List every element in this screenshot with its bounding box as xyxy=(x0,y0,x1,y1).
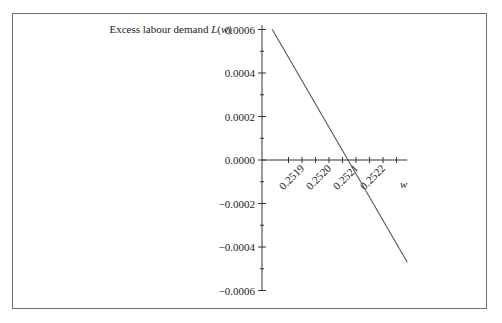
x-tick-label: 0.2521 xyxy=(331,162,361,192)
excess-labour-demand-chart: 0.00060.00040.00020.0000−0.0002−0.0004−0… xyxy=(0,0,502,323)
x-axis-label: w xyxy=(400,178,408,190)
y-tick-label: 0.0000 xyxy=(225,154,256,166)
y-tick-label: 0.0002 xyxy=(225,111,255,123)
y-tick-label: −0.0006 xyxy=(219,285,256,297)
x-tick-label: 0.2519 xyxy=(277,162,307,192)
y-axis-label: Excess labour demand L(w) xyxy=(109,23,232,36)
y-axis: 0.00060.00040.00020.0000−0.0002−0.0004−0… xyxy=(219,24,266,297)
y-tick-label: 0.0004 xyxy=(225,67,256,79)
x-tick-label: 0.2520 xyxy=(304,162,334,192)
series-line xyxy=(272,30,407,263)
x-axis: 0.25190.25200.25210.2522 xyxy=(262,157,407,192)
y-tick-label: −0.0004 xyxy=(219,241,256,253)
y-tick-label: −0.0002 xyxy=(219,198,255,210)
x-tick-label: 0.2522 xyxy=(358,162,388,192)
data-series xyxy=(272,30,407,263)
